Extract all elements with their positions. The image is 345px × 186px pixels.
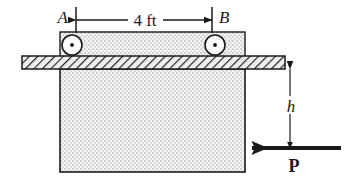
label-point-b: B (219, 8, 230, 27)
hatched-plate (22, 56, 285, 69)
roller-b (205, 35, 225, 55)
roller-a (62, 35, 82, 55)
label-point-a: A (57, 8, 69, 27)
diagram-canvas: A B 4 ft h P (0, 0, 345, 186)
main-block (60, 69, 245, 172)
label-force-p: P (289, 156, 300, 176)
label-height-h: h (287, 97, 296, 116)
label-dimension-4ft: 4 ft (133, 11, 156, 30)
statics-diagram-figure: A B 4 ft h P (0, 0, 345, 186)
